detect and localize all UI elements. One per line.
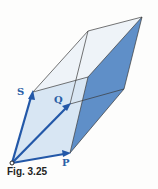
origin-point <box>10 161 14 165</box>
label-s: S <box>17 86 24 97</box>
label-q: Q <box>54 94 63 105</box>
label-p: P <box>62 157 70 168</box>
figure-caption: Fig. 3.25 <box>7 166 47 177</box>
parallelepiped-figure: S Q P Fig. 3.25 <box>0 0 158 189</box>
